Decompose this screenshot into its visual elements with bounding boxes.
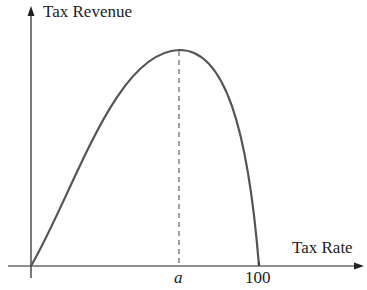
y-axis-label: Tax Revenue xyxy=(43,2,132,22)
x-axis-label: Tax Rate xyxy=(292,238,353,258)
x-axis-arrow-icon xyxy=(354,263,364,270)
y-axis-arrow-icon xyxy=(28,6,35,16)
revenue-curve xyxy=(31,50,259,266)
tick-label-a: a xyxy=(174,268,183,288)
tick-label-100: 100 xyxy=(245,268,271,288)
